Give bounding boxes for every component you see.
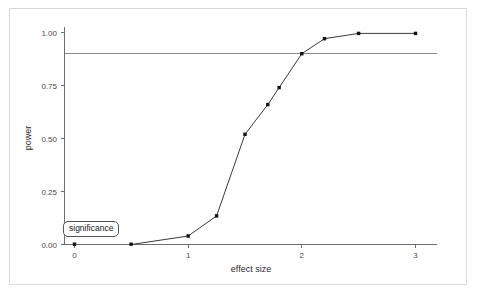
y-axis-title: power bbox=[23, 126, 33, 151]
data-point bbox=[357, 32, 360, 35]
x-tick-label-2: 2 bbox=[300, 251, 305, 260]
x-tick-label-1: 1 bbox=[186, 251, 191, 260]
data-point bbox=[277, 86, 280, 89]
null-effect-data-point bbox=[73, 243, 76, 246]
significance-annotation-box: significance bbox=[63, 221, 119, 237]
power-curve-line bbox=[131, 33, 415, 244]
data-point bbox=[215, 214, 218, 217]
y-axis-ticks bbox=[61, 33, 65, 245]
x-axis-title: effect size bbox=[231, 264, 271, 274]
data-point bbox=[187, 234, 190, 237]
data-point bbox=[266, 103, 269, 106]
x-tick-label-3: 3 bbox=[413, 251, 418, 260]
data-point bbox=[243, 133, 246, 136]
power-curve-points bbox=[129, 32, 417, 246]
data-point bbox=[414, 32, 417, 35]
y-tick-label-0: 0.00 bbox=[41, 241, 57, 250]
power-curve-chart: 1.00 0.75 0.50 0.25 0.00 0 1 2 3 effect … bbox=[0, 0, 478, 296]
significance-annotation-label: significance bbox=[69, 223, 113, 233]
chart-screenshot: 1.00 0.75 0.50 0.25 0.00 0 1 2 3 effect … bbox=[0, 0, 478, 296]
x-tick-label-0: 0 bbox=[72, 251, 77, 260]
y-tick-label-4: 1.00 bbox=[41, 29, 57, 38]
y-tick-label-2: 0.50 bbox=[41, 135, 57, 144]
data-point bbox=[300, 52, 303, 55]
data-point bbox=[323, 37, 326, 40]
x-axis-ticks bbox=[75, 245, 416, 249]
y-tick-label-3: 0.75 bbox=[41, 82, 57, 91]
data-point bbox=[129, 243, 132, 246]
y-tick-label-1: 0.25 bbox=[41, 188, 57, 197]
